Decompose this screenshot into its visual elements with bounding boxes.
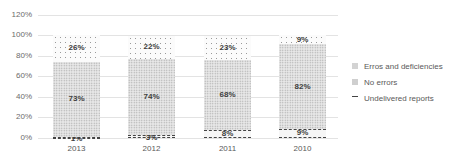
data-label: 26% (53, 43, 100, 53)
legend-label: Undelivered reports (364, 94, 434, 103)
x-tick: 2013 (53, 144, 100, 153)
gridline-120 (38, 15, 338, 16)
legend-item-undelivered: Undelivered reports (352, 90, 443, 106)
data-label: 9% (279, 35, 326, 45)
chart-legend: Erros and deficiencies No errors Undeliv… (352, 58, 443, 106)
x-tick: 2011 (204, 144, 251, 153)
legend-label: No errors (364, 78, 397, 87)
data-label: 68% (204, 90, 251, 100)
y-tick: 100% (0, 30, 32, 40)
dense-swatch-icon (352, 79, 358, 85)
y-tick: 0% (0, 133, 32, 143)
data-label: 73% (53, 94, 100, 104)
data-label: 74% (128, 92, 175, 102)
data-label: 8% (204, 129, 251, 139)
chart-plot-area: 120% 100% 80% 60% 40% 20% 0% 1%73%26%3%7… (38, 0, 338, 164)
data-label: 23% (204, 43, 251, 53)
data-label: 3% (128, 133, 175, 143)
y-tick: 80% (0, 51, 32, 61)
data-label: 22% (128, 42, 175, 52)
y-tick: 60% (0, 71, 32, 81)
data-label: 9% (279, 128, 326, 138)
dotted-swatch-icon (352, 63, 358, 69)
x-tick: 2012 (128, 144, 175, 153)
y-tick: 20% (0, 112, 32, 122)
legend-item-no-errors: No errors (352, 74, 443, 90)
data-label: 82% (279, 82, 326, 92)
legend-item-errors: Erros and deficiencies (352, 58, 443, 74)
y-tick: 40% (0, 92, 32, 102)
legend-label: Erros and deficiencies (364, 62, 443, 71)
dashed-swatch-icon (352, 96, 358, 100)
y-tick: 120% (0, 10, 32, 20)
x-tick: 2010 (279, 144, 326, 153)
